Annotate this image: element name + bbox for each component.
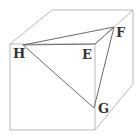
label-E: E (82, 47, 92, 62)
cube-diagram: H E F G (0, 0, 140, 138)
segment-EF (95, 27, 114, 44)
label-H: H (13, 46, 25, 61)
label-F: F (116, 25, 126, 40)
segment-HF (23, 27, 114, 45)
label-G: G (98, 101, 109, 116)
cube-edge-top-left (10, 10, 52, 44)
segment-FG (94, 27, 114, 108)
